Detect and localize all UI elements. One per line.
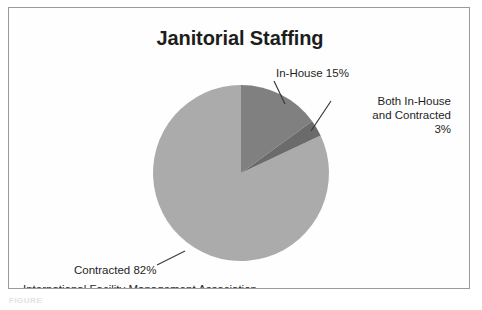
pie-label-both-line3: 3%: [339, 122, 451, 136]
pie-label-in-house: In-House 15%: [276, 66, 349, 80]
pie-label-both-line2: and Contracted: [339, 108, 451, 122]
figure-caption: FIGURE: [9, 296, 42, 305]
source-attribution: International Facility Management Associ…: [23, 283, 257, 289]
pie-label-contracted: Contracted 82%: [74, 263, 156, 277]
leader-line-both: [311, 101, 331, 131]
pie-chart-svg: [9, 8, 470, 289]
figure-container: Janitorial Staffing In-House 15% B: [0, 0, 482, 310]
pie-chart: [9, 8, 470, 289]
leader-line-contracted: [157, 251, 185, 265]
pie-label-both-line1: Both In-House: [339, 94, 451, 108]
chart-frame: Janitorial Staffing In-House 15% B: [8, 7, 470, 289]
pie-label-both: Both In-House and Contracted 3%: [339, 94, 451, 136]
